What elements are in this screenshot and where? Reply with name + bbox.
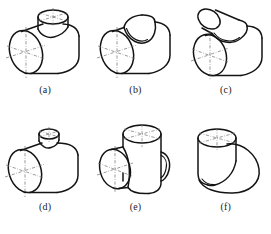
vert-top-arc-b bbox=[142, 15, 155, 22]
vert-right-e bbox=[149, 134, 161, 194]
oblique-end-ellipse-c bbox=[194, 5, 224, 34]
horiz-top-edge-e bbox=[111, 147, 123, 150]
far-end-d bbox=[57, 155, 78, 193]
centerlines-d bbox=[5, 127, 59, 197]
intersection-curve-d bbox=[39, 140, 59, 148]
intersection-inner-b bbox=[127, 29, 148, 42]
horizontal-cylinder-e bbox=[96, 146, 171, 193]
horizontal-cylinder-a bbox=[4, 24, 79, 78]
figure-label-e: (e) bbox=[130, 202, 142, 212]
horiz-bottom-edge-e bbox=[119, 188, 128, 189]
centerlines-c bbox=[191, 31, 229, 80]
right-lobe-inner-e bbox=[161, 155, 166, 178]
top-edge-left-a bbox=[22, 24, 44, 32]
figure-cell-a: (a) bbox=[0, 0, 90, 117]
top-ellipse-d bbox=[39, 129, 59, 139]
figure-cell-b: (b) bbox=[90, 0, 180, 117]
figure-a-drawing bbox=[0, 0, 90, 88]
centerlines-b bbox=[97, 27, 137, 78]
figure-plate: (a) bbox=[0, 0, 271, 234]
figure-f-drawing bbox=[181, 117, 271, 205]
figure-grid: (a) bbox=[0, 0, 271, 234]
oblique-top-join-c bbox=[239, 20, 247, 26]
centerlines-a bbox=[6, 8, 67, 78]
horizontal-cylinder-b bbox=[95, 22, 170, 78]
figure-cell-d: (d) bbox=[0, 117, 90, 234]
far-end-b bbox=[149, 35, 170, 74]
figure-c-drawing bbox=[181, 0, 271, 88]
top-edge-right-c bbox=[247, 26, 262, 38]
far-end-c bbox=[241, 38, 262, 76]
vert-left-arc-b bbox=[124, 15, 142, 28]
figure-cell-f: (f) bbox=[181, 117, 271, 234]
top-edge-right-d bbox=[57, 143, 78, 155]
intersection-curve-e bbox=[123, 147, 129, 188]
intersection-curve-f bbox=[208, 161, 236, 186]
far-end-a bbox=[58, 36, 79, 74]
figure-b-drawing bbox=[90, 0, 180, 88]
figure-label-d: (d) bbox=[39, 202, 51, 212]
figure-cell-e: (e) bbox=[90, 117, 180, 234]
figure-cell-c: (c) bbox=[181, 0, 271, 117]
figure-e-drawing bbox=[90, 117, 180, 205]
centerline-boss-iso2-a bbox=[39, 13, 67, 21]
figure-d-drawing bbox=[0, 117, 90, 205]
figure-label-f: (f) bbox=[221, 202, 232, 212]
vert-bottom-e bbox=[128, 188, 149, 194]
oblique-cylinder-c bbox=[194, 5, 247, 43]
top-edge-right-b bbox=[155, 22, 170, 35]
figure-label-a: (a) bbox=[39, 85, 51, 95]
intersection-curve-c bbox=[212, 26, 247, 42]
figure-label-b: (b) bbox=[129, 85, 141, 95]
intersection-curve-a bbox=[38, 27, 68, 37]
figure-label-c: (c) bbox=[220, 85, 232, 95]
horizontal-cylinder-d bbox=[3, 143, 78, 197]
horizontal-cylinder-c bbox=[188, 26, 262, 80]
top-edge-left-d bbox=[21, 143, 43, 151]
